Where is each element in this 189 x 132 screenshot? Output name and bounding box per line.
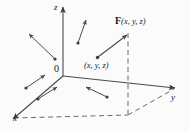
- vector-field-figure: z y x 0 (x, y, z) F(x, y, z): [0, 0, 189, 132]
- point-coordinates-label: (x, y, z): [84, 61, 109, 70]
- vector-F-label: F(x, y, z): [115, 16, 146, 26]
- vector-F-line: [98, 35, 127, 57]
- y-axis-label: y: [171, 93, 175, 102]
- vector-F-arguments: (x, y, z): [121, 16, 146, 26]
- origin-label: 0: [54, 64, 59, 74]
- field-arrow-bottom-mid: [86, 87, 107, 97]
- x-axis-label: x: [13, 114, 17, 123]
- z-axis-label: z: [54, 3, 58, 12]
- base-front-edge-dashed: [14, 115, 128, 118]
- field-arrow-top-mid: [78, 20, 86, 43]
- field-arrow-upper-left: [29, 34, 55, 59]
- base-right-edge-dashed: [128, 89, 174, 115]
- y-axis-line: [63, 76, 175, 88]
- field-arrow-left-low: [26, 75, 45, 88]
- point-xyz-marker: [96, 56, 99, 59]
